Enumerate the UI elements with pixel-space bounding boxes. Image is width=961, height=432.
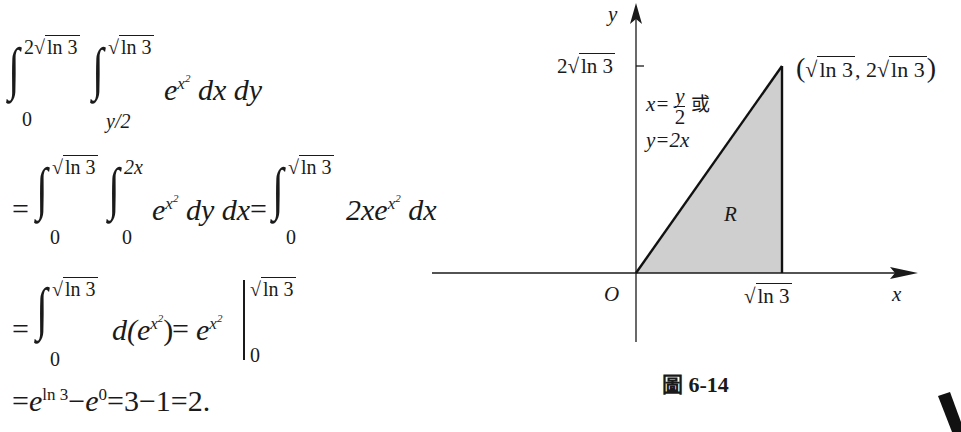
cropped-glyph-fragment	[938, 392, 961, 432]
line-equation-label: x= y 2 或	[646, 86, 710, 127]
figure-caption: 圖 6-14	[662, 368, 729, 398]
origin-label: O	[604, 282, 619, 307]
vertex-label: (√ln 3, 2√ln 3)	[796, 52, 936, 84]
x-axis-label: x	[892, 282, 901, 307]
region-label: R	[724, 202, 737, 227]
line-equation-label-2: y=2x	[646, 128, 689, 153]
y-axis-label: y	[608, 2, 617, 27]
x-tick-label: √ln 3	[744, 284, 792, 309]
y-tick-label: 2√ln 3	[557, 54, 615, 79]
